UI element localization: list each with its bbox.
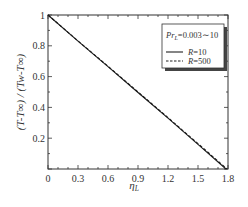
x-tick-label: 1.8 [222,173,235,184]
y-tick-label: 1 [40,10,45,21]
x-tick-label: 0.6 [102,173,115,184]
x-tick-label: 1.2 [162,173,175,184]
y-axis-title: (T-T∞) / (Tw-T∞) [14,53,27,130]
chart: 00.30.60.91.21.51.8 0.20.40.60.81 ηL (T-… [0,0,248,207]
x-tick-label: 0.3 [72,173,85,184]
y-tick-label: 0.8 [33,40,46,51]
legend-annotation: PrL=0.003∼10 [165,30,218,41]
y-tick-label: 0.2 [33,133,46,144]
legend: PrL=0.003∼10 R=10 R=500 [162,24,227,71]
legend-entry-r500: R=500 [187,56,211,66]
y-tick-label: 0.4 [33,102,46,113]
y-tick-labels: 0.20.40.60.81 [33,10,46,144]
x-tick-labels: 00.30.60.91.21.51.8 [46,173,235,184]
y-tick-label: 0.6 [33,71,46,82]
x-tick-label: 1.5 [192,173,205,184]
x-tick-label: 0 [46,173,51,184]
